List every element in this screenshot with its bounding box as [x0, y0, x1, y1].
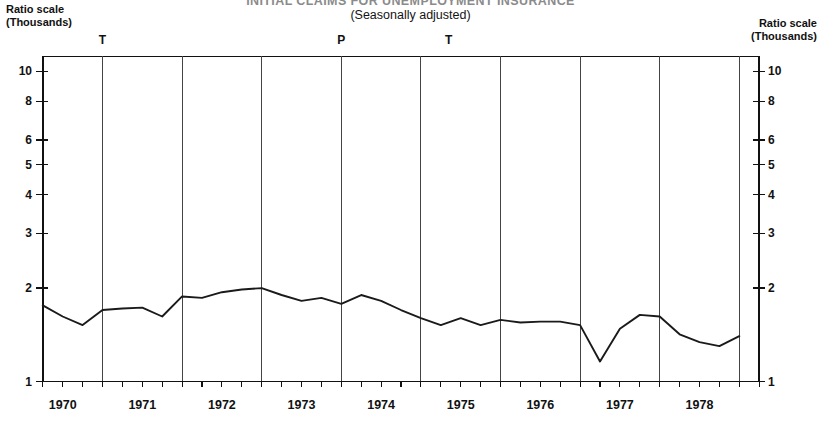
chart-canvas: INITIAL CLAIMS FOR UNEMPLOYMENT INSURANC… [0, 0, 821, 428]
series-path [43, 288, 740, 361]
data-series-line [0, 0, 821, 428]
